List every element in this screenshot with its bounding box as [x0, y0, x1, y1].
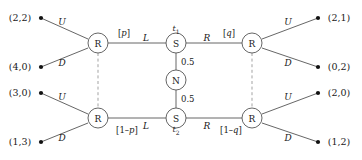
payoff-4-0-dot	[39, 65, 43, 69]
payoff-0-2-dot	[316, 65, 320, 69]
action-label-L-top: L	[143, 34, 149, 43]
action-label-R-bottom: R	[204, 122, 211, 131]
action-label-D-bottomleft: D	[58, 134, 65, 143]
node-R-top-right-circle	[242, 33, 262, 53]
belief-label-q: [q]	[223, 29, 235, 38]
belief-label-p: [p]	[118, 29, 130, 38]
payoff-2-0-dot	[316, 91, 320, 95]
action-label-L-bottom: L	[143, 122, 149, 131]
action-label-D-topright: D	[284, 59, 291, 68]
chance-prob-prob-lower: 0.5	[181, 95, 195, 104]
payoff-2-0-label: (2,0)	[328, 88, 351, 98]
action-label-D-topleft: D	[58, 59, 65, 68]
game-tree-figure: RRSSNRR(2,2)(4,0)(3,0)(1,3)(2,1)(0,2)(2,…	[0, 0, 362, 160]
chance-prob-prob-upper: 0.5	[181, 58, 195, 67]
payoff-2-2-dot	[39, 16, 43, 20]
payoff-0-2-label: (0,2)	[328, 62, 351, 72]
type-label-t1: t1	[172, 25, 179, 35]
payoff-3-0-label: (3,0)	[9, 88, 32, 98]
payoff-1-3-dot	[39, 140, 43, 144]
action-label-R-top: R	[204, 34, 211, 43]
node-S-t2-circle	[166, 108, 186, 128]
node-R-bottom-right-circle	[242, 108, 262, 128]
node-circle-group	[88, 33, 262, 128]
payoff-1-3-label: (1,3)	[9, 137, 32, 147]
payoff-2-2-label: (2,2)	[9, 13, 32, 23]
action-label-U-bottomleft: U	[58, 93, 66, 102]
type-label-t2: t2	[172, 126, 179, 136]
payoff-1-2-label: (1,2)	[328, 137, 351, 147]
payoff-4-0-label: (4,0)	[9, 62, 32, 72]
node-R-bottom-left-circle	[88, 108, 108, 128]
action-label-U-topright: U	[284, 18, 292, 27]
action-label-U-topleft: U	[58, 18, 66, 27]
payoff-2-1-label: (2,1)	[328, 13, 351, 23]
payoff-3-0-dot	[39, 91, 43, 95]
tree-canvas	[0, 0, 362, 160]
node-R-top-left-circle	[88, 33, 108, 53]
belief-label-one-minus-q: [1–q]	[220, 126, 242, 135]
payoff-2-1-dot	[316, 16, 320, 20]
action-label-U-bottomright: U	[284, 93, 292, 102]
node-S-t1-circle	[166, 33, 186, 53]
action-label-D-bottomright: D	[284, 134, 291, 143]
node-N-chance-circle	[166, 70, 186, 90]
payoff-1-2-dot	[316, 140, 320, 144]
belief-label-one-minus-p: [1–p]	[116, 126, 138, 135]
